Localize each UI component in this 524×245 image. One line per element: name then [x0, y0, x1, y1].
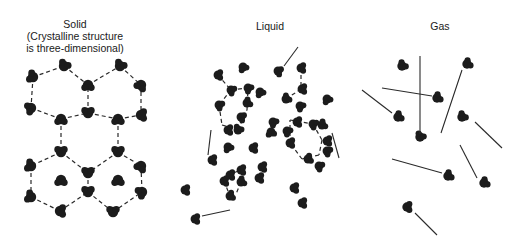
atom	[224, 147, 230, 153]
molecule	[397, 59, 408, 70]
atom	[445, 169, 451, 175]
molecule	[136, 108, 147, 121]
molecule	[256, 88, 267, 99]
atom	[184, 190, 190, 196]
atom	[28, 70, 35, 77]
atom	[111, 118, 118, 125]
liquid-panel	[181, 47, 339, 225]
atom	[261, 167, 267, 173]
motion-line	[208, 130, 211, 155]
atom	[140, 115, 147, 122]
molecule	[479, 176, 490, 187]
atom	[296, 122, 302, 128]
atom	[256, 92, 262, 98]
molecule	[304, 153, 314, 164]
atom	[421, 133, 427, 139]
motion-line	[392, 159, 442, 173]
atom	[301, 83, 307, 89]
atom	[88, 84, 95, 91]
molecule	[318, 119, 329, 130]
atom	[301, 89, 307, 95]
atom	[278, 66, 284, 72]
molecule	[81, 107, 94, 118]
molecule	[133, 161, 146, 174]
atom	[121, 62, 128, 69]
atom	[61, 179, 68, 186]
atom	[81, 84, 88, 91]
atom	[81, 167, 88, 174]
molecule	[297, 62, 307, 73]
atom	[239, 176, 245, 182]
atom	[184, 184, 190, 190]
atom	[296, 116, 302, 122]
atom	[241, 180, 247, 186]
atom	[88, 107, 95, 114]
atom	[194, 213, 200, 219]
molecule	[181, 184, 191, 195]
molecule	[244, 84, 255, 95]
atom	[403, 63, 409, 69]
molecule	[237, 164, 247, 175]
molecule	[415, 130, 426, 141]
molecule	[274, 66, 284, 77]
molecule	[208, 154, 218, 165]
motion-line	[382, 88, 432, 96]
molecule	[133, 80, 146, 93]
molecule	[234, 124, 245, 135]
atom	[319, 162, 325, 168]
molecule	[26, 70, 38, 83]
atom	[88, 186, 95, 193]
molecule	[24, 190, 36, 203]
atom	[261, 90, 267, 96]
atom	[24, 196, 31, 203]
molecule	[224, 143, 235, 154]
atom	[301, 197, 307, 203]
atom	[325, 152, 331, 158]
atom	[261, 161, 267, 167]
atom	[293, 188, 299, 194]
molecule	[462, 57, 473, 68]
molecule	[55, 204, 66, 217]
atom	[245, 89, 251, 95]
solid-panel	[24, 59, 147, 218]
atom	[135, 187, 142, 194]
molecule	[237, 176, 248, 187]
molecule	[393, 110, 404, 121]
hydrogen-bond	[319, 140, 322, 155]
atom	[227, 130, 233, 136]
atom	[118, 179, 125, 186]
gas-panel	[362, 56, 502, 235]
atom	[320, 119, 326, 125]
molecule	[249, 142, 259, 153]
molecule	[135, 187, 148, 200]
atom	[464, 57, 470, 63]
molecule	[81, 186, 94, 197]
atom	[463, 114, 469, 120]
atom	[322, 123, 328, 129]
atom	[437, 96, 443, 102]
atom	[54, 118, 61, 125]
atom	[115, 59, 122, 66]
atom	[61, 146, 68, 153]
atom	[111, 146, 118, 153]
molecule	[214, 69, 224, 80]
molecule	[191, 213, 201, 224]
atom	[258, 178, 264, 184]
atom	[24, 102, 31, 109]
molecule	[111, 175, 124, 186]
motion-line	[441, 70, 462, 133]
atom	[306, 153, 312, 159]
atom	[194, 219, 200, 225]
atom	[231, 86, 237, 92]
molecule	[220, 175, 230, 186]
atom	[229, 145, 235, 151]
molecule	[298, 197, 308, 208]
atom	[484, 181, 490, 187]
atom	[118, 146, 125, 153]
atom	[240, 164, 246, 170]
molecule	[54, 175, 67, 186]
molecule	[290, 182, 300, 193]
molecule	[298, 83, 308, 94]
molecule	[255, 172, 265, 183]
molecule	[243, 97, 254, 108]
